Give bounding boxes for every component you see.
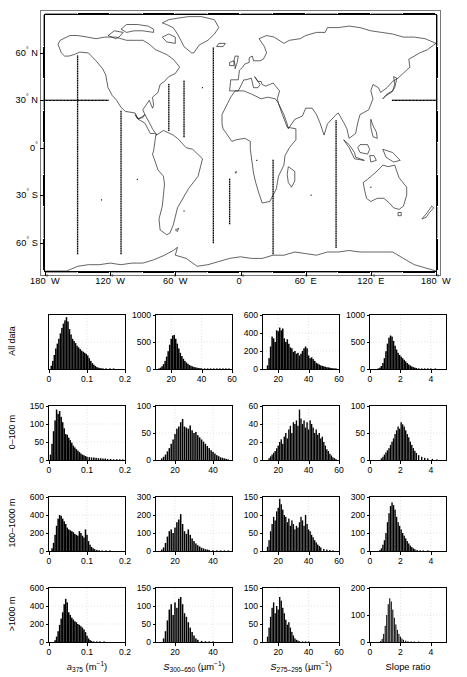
hist-ytick-mark <box>260 642 263 643</box>
hist-xtick-label: 20 <box>166 374 176 384</box>
map-xtick-mark <box>175 272 176 276</box>
histogram-axes <box>48 496 126 552</box>
histogram-panel: 02405001000 <box>369 314 447 370</box>
hist-xtick-mark <box>431 370 432 373</box>
hist-xtick-label: 60 <box>227 374 237 384</box>
hist-xtick-mark <box>278 552 279 555</box>
histogram-graphic <box>156 497 232 551</box>
histogram-panel: 0240100200300 <box>369 496 447 552</box>
hist-xtick-mark <box>400 461 401 464</box>
hist-ytick-label: 100 <box>325 610 365 620</box>
histogram-axes <box>155 496 233 552</box>
hist-xtick-mark <box>213 643 214 646</box>
hist-ytick-mark <box>260 351 263 352</box>
hist-xtick-label: 0.1 <box>81 465 93 475</box>
hist-ytick-mark <box>153 497 156 498</box>
hist-xtick-label: 0 <box>368 556 373 566</box>
hist-xtick-label: 0 <box>368 647 373 657</box>
hist-xtick-label: 4 <box>428 374 433 384</box>
histogram-column-label: S275–295 (µm−1) <box>270 661 332 672</box>
hist-xtick-label: 40 <box>304 374 314 384</box>
map-ytick-label: 30° S <box>2 190 38 200</box>
map-ytick-label: 60° N <box>2 48 38 58</box>
hist-xtick-label: 20 <box>170 647 180 657</box>
hist-ytick-label: 200 <box>218 346 258 356</box>
hist-ytick-label: 200 <box>325 583 365 593</box>
map-ytick-label: 0° <box>2 143 38 153</box>
histogram-graphic <box>49 497 125 551</box>
hist-ytick-label: 50 <box>218 528 258 538</box>
hist-xtick-label: 40 <box>304 647 314 657</box>
map-inner-frame <box>44 14 437 272</box>
hist-xtick-label: 0 <box>368 465 373 475</box>
hist-ytick-mark <box>260 460 263 461</box>
hist-ytick-label: 0 <box>218 546 258 556</box>
histogram-column-label: a375 (m−1) <box>67 661 107 672</box>
hist-ytick-label: 500 <box>325 337 365 347</box>
histogram-matrix: 00.10.2204060050010002040600200400600024… <box>0 300 467 677</box>
hist-ytick-mark <box>153 433 156 434</box>
histogram-panel: 204060050100150 <box>262 496 340 552</box>
hist-xtick-label: 40 <box>208 647 218 657</box>
histogram-row-label: >1000 m <box>7 579 17 649</box>
histogram-axes <box>369 587 447 643</box>
hist-xtick-mark <box>309 370 310 373</box>
hist-xtick-mark <box>431 552 432 555</box>
histogram-graphic <box>370 315 446 369</box>
map-xtick-mark <box>241 272 242 276</box>
hist-ytick-label: 300 <box>111 492 151 502</box>
histogram-column-label: Slope ratio <box>386 661 431 672</box>
hist-ytick-mark <box>46 606 49 607</box>
hist-xtick-mark <box>87 552 88 555</box>
hist-ytick-label: 0 <box>111 364 151 374</box>
histogram-axes <box>48 587 126 643</box>
histogram-panel: 00.10.20200400600 <box>48 496 126 552</box>
hist-xtick-mark <box>202 370 203 373</box>
hist-ytick-label: 100 <box>111 601 151 611</box>
hist-ytick-mark <box>260 369 263 370</box>
histogram-panel: 2040050100 <box>155 405 233 461</box>
hist-ytick-label: 600 <box>218 310 258 320</box>
hist-ytick-mark <box>153 515 156 516</box>
hist-xtick-mark <box>49 552 50 555</box>
hist-ytick-mark <box>260 333 263 334</box>
map-xtick-label: 180° W <box>421 276 451 286</box>
map-xtick-label: 120° W <box>95 276 125 286</box>
hist-ytick-mark <box>367 588 370 589</box>
histogram-row-label: 100–1000 m <box>7 488 17 558</box>
map-ytick-mark <box>40 100 44 101</box>
map-ytick-label: 30° N <box>2 95 38 105</box>
hist-ytick-mark <box>46 624 49 625</box>
hist-xtick-label: 60 <box>334 465 344 475</box>
histogram-column-label: S300–650 (µm−1) <box>163 661 225 672</box>
map-ytick-mark <box>40 195 44 196</box>
hist-ytick-mark <box>367 433 370 434</box>
hist-ytick-mark <box>153 606 156 607</box>
hist-xtick-label: 0.1 <box>81 556 93 566</box>
histogram-panel: 2040050100150 <box>155 587 233 643</box>
hist-xtick-mark <box>49 461 50 464</box>
map-xtick-label: 0° <box>237 276 245 286</box>
hist-xtick-label: 2 <box>398 465 403 475</box>
hist-ytick-mark <box>260 533 263 534</box>
hist-xtick-mark <box>87 370 88 373</box>
hist-ytick-mark <box>46 424 49 425</box>
hist-ytick-mark <box>46 515 49 516</box>
hist-xtick-label: 60 <box>334 374 344 384</box>
map-xtick-mark <box>306 272 307 276</box>
hist-ytick-mark <box>46 460 49 461</box>
hist-xtick-label: 60 <box>334 556 344 566</box>
hist-xtick-label: 0 <box>47 556 52 566</box>
hist-xtick-label: 0.1 <box>81 647 93 657</box>
hist-ytick-mark <box>46 642 49 643</box>
histogram-graphic <box>370 497 446 551</box>
hist-ytick-label: 50 <box>111 619 151 629</box>
hist-ytick-label: 300 <box>325 492 365 502</box>
hist-ytick-mark <box>260 406 263 407</box>
histogram-graphic <box>49 588 125 642</box>
hist-xtick-label: 4 <box>428 647 433 657</box>
histogram-graphic <box>370 588 446 642</box>
map-xtick-mark <box>436 272 437 276</box>
hist-ytick-mark <box>367 460 370 461</box>
hist-xtick-label: 20 <box>273 465 283 475</box>
